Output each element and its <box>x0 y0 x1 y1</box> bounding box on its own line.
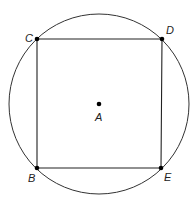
label-b: B <box>28 172 35 184</box>
point-b <box>35 166 40 171</box>
point-e <box>159 166 164 171</box>
label-e: E <box>164 171 172 183</box>
point-c <box>35 37 40 42</box>
label-d: D <box>166 24 174 36</box>
point-a-center <box>97 102 102 107</box>
label-a: A <box>94 111 102 123</box>
inscribed-square-diagram: C D B E A <box>0 0 196 203</box>
label-c: C <box>25 32 33 44</box>
point-d <box>160 37 165 42</box>
